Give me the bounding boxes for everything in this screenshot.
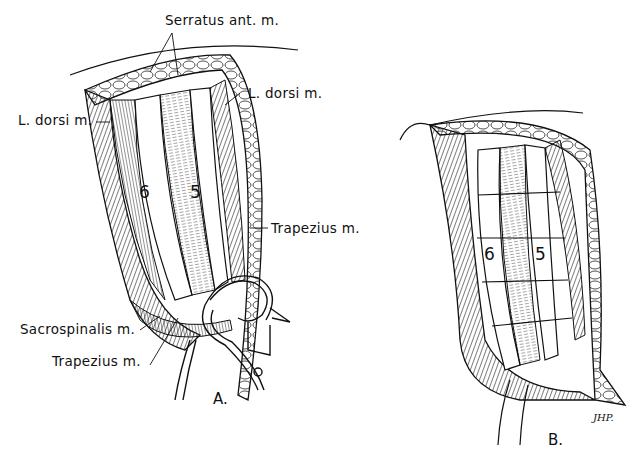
label-latissimus-dorsi-right: L. dorsi m. [248, 87, 322, 101]
rib-number-5-b: 5 [535, 246, 546, 263]
panel-b-drawing [400, 111, 625, 445]
rib-number-6-a: 6 [139, 184, 150, 201]
panel-caption-b: B. [548, 433, 563, 448]
label-trapezius-right: Trapezius m. [271, 222, 360, 236]
rib-number-6-b: 6 [484, 246, 495, 263]
rib-number-5-a: 5 [190, 184, 201, 201]
label-trapezius-bottom: Trapezius m. [52, 355, 141, 369]
label-sacrospinalis: Sacrospinalis m. [20, 323, 135, 337]
label-serratus-anterior: Serratus ant. m. [165, 14, 279, 28]
artist-signature: JHP. [593, 413, 614, 423]
label-latissimus-dorsi-left: L. dorsi m. [18, 114, 92, 128]
panel-caption-a: A. [213, 392, 228, 407]
